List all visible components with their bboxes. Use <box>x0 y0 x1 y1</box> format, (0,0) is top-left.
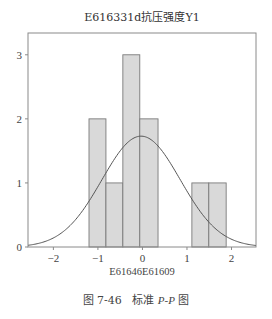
x-tick-label: 2 <box>229 252 235 264</box>
y-tick-label: 2 <box>17 113 23 125</box>
caption-text-before: 标准 <box>132 294 158 307</box>
histogram-bar-2 <box>123 55 140 247</box>
x-tick-label: −1 <box>92 252 104 264</box>
caption-text-after: 图 <box>175 294 190 307</box>
chart-title: E616331d抗压强度Y1 <box>84 10 199 24</box>
x-tick-label: 1 <box>184 252 190 264</box>
histogram-chart: E616331d抗压强度Y1 0123 −2−1012 E61646E61609 <box>0 0 272 290</box>
y-tick-label: 0 <box>17 241 23 253</box>
histogram-bar-4 <box>192 183 209 247</box>
histogram-bar-1 <box>106 183 123 247</box>
y-tick-label: 1 <box>17 177 23 189</box>
y-axis: 0123 <box>17 49 29 253</box>
y-tick-label: 3 <box>17 49 23 61</box>
x-tick-label: 0 <box>140 252 146 264</box>
x-axis: −2−1012 <box>48 247 235 264</box>
caption-number: 图 7-46 <box>83 294 122 307</box>
figure-caption: 图 7-46 标准 P-P 图 <box>0 291 272 307</box>
caption-italic: P-P <box>158 294 175 306</box>
x-axis-label: E61646E61609 <box>109 266 174 277</box>
histogram-bar-0 <box>89 119 106 247</box>
x-tick-label: −2 <box>48 252 60 264</box>
histogram-bar-5 <box>209 183 226 247</box>
